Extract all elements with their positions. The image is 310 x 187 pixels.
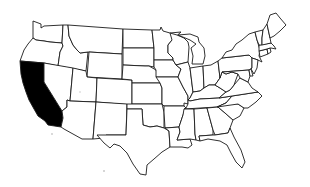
state-wyoming[interactable]	[87, 52, 122, 79]
state-new-jersey[interactable]	[251, 58, 258, 74]
scan-speck	[79, 91, 81, 93]
state-north-dakota[interactable]	[123, 29, 154, 48]
state-indiana[interactable]	[190, 66, 204, 92]
state-kansas[interactable]	[132, 83, 162, 104]
state-montana[interactable]	[68, 25, 123, 54]
state-new-mexico[interactable]	[93, 102, 127, 139]
state-colorado[interactable]	[96, 78, 132, 105]
state-maine[interactable]	[267, 13, 286, 38]
scan-speck	[103, 170, 105, 172]
state-washington[interactable]	[33, 21, 63, 43]
us-map: United States	[0, 0, 310, 187]
scan-speck	[51, 133, 53, 135]
state-south-dakota[interactable]	[123, 48, 154, 67]
